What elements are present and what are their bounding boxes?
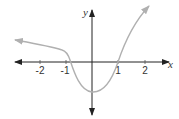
- function-curve: [15, 6, 149, 92]
- function-graph: -2 -1 1 2 x y: [0, 0, 179, 119]
- tick-label: 2: [142, 65, 148, 76]
- y-axis-label: y: [82, 6, 88, 18]
- tick-label: -2: [36, 65, 45, 76]
- tick-label: -1: [61, 65, 70, 76]
- curve-left-ray: [15, 40, 62, 50]
- x-axis-label: x: [167, 58, 173, 70]
- curve-main: [62, 6, 149, 92]
